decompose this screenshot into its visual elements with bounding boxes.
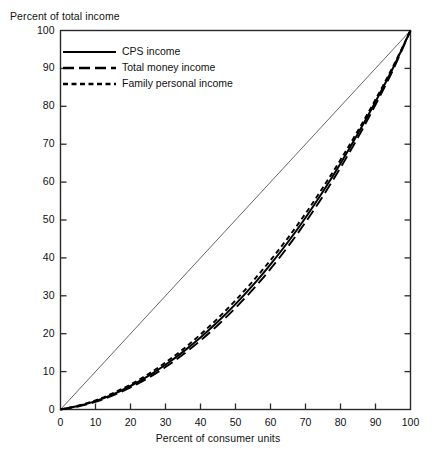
x-tick-label: 70 [291,416,321,428]
y-tick-label: 100 [25,24,55,36]
lorenz-curve-figure: Percent of total income Percent of consu… [0,0,436,454]
x-tick-label: 90 [361,416,391,428]
y-tick-label: 90 [25,61,55,73]
y-tick-label: 30 [25,289,55,301]
y-tick-label: 80 [25,99,55,111]
legend-label-1: Total money income [122,61,215,73]
legend-label-2: Family personal income [122,77,233,89]
x-tick-label: 60 [256,416,286,428]
tick-marks [61,68,411,409]
y-tick-label: 10 [25,365,55,377]
x-tick-label: 20 [116,416,146,428]
x-tick-label: 0 [46,416,76,428]
x-tick-label: 10 [81,416,111,428]
legend-line-samples [63,52,116,84]
x-tick-label: 30 [151,416,181,428]
y-tick-label: 60 [25,175,55,187]
y-tick-label: 20 [25,327,55,339]
y-tick-label: 40 [25,251,55,263]
equality-line [61,31,411,410]
x-tick-label: 50 [221,416,251,428]
equality-reference-line [61,31,411,410]
x-tick-label: 100 [396,416,426,428]
x-tick-label: 40 [186,416,216,428]
x-tick-label: 80 [326,416,356,428]
y-tick-label: 50 [25,213,55,225]
legend-label-0: CPS income [122,45,180,57]
plot-canvas [0,0,436,454]
y-tick-label: 0 [25,403,55,415]
y-tick-label: 70 [25,137,55,149]
